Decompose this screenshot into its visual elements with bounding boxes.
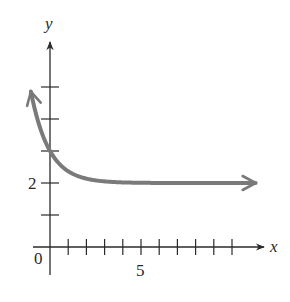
curve [27, 92, 256, 190]
labels: x y 0 5 2 [28, 14, 278, 280]
curve-path [31, 92, 256, 183]
y-axis-label: y [43, 14, 53, 33]
x-tick-label-5: 5 [136, 261, 145, 280]
y-tick-label-2: 2 [28, 174, 37, 193]
function-graph: x y 0 5 2 [0, 0, 290, 302]
x-axis-label: x [269, 237, 278, 256]
origin-label: 0 [34, 249, 43, 268]
